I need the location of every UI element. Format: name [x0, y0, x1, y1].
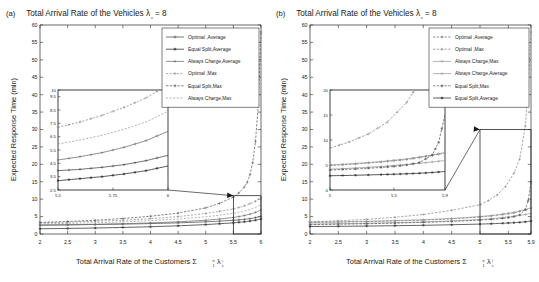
- y-tick-label: 35: [32, 109, 38, 115]
- svg-text:i: i: [222, 259, 223, 263]
- panel-b-svg: (b)Total Arrival Rate of the Vehicles λv…: [270, 0, 539, 282]
- legend-label: Equal Split,Max: [455, 84, 490, 89]
- x-tick-label: 5.5: [504, 239, 511, 245]
- y-tick-label: 10: [301, 196, 307, 202]
- inset-x-tick-label: 5.5: [390, 193, 397, 198]
- svg-text:c: c: [222, 264, 224, 268]
- y-axis-label: Expected Response Time (min): [9, 78, 18, 181]
- y-tick-label: 25: [32, 144, 38, 150]
- x-axis-label: Total Arrival Rate of the Customers Σn1λ…: [76, 257, 224, 268]
- x-tick-label: 5: [204, 239, 207, 245]
- x-tick-label: 6: [260, 239, 263, 245]
- inset-x-tick-label: 5.75: [109, 193, 118, 198]
- panel-label: (a): [6, 9, 16, 18]
- inset-y-tick-label: 15: [323, 113, 328, 118]
- inset-x-tick-label: 5.5: [55, 193, 62, 198]
- inset-x-tick-label: 5.9: [442, 193, 449, 198]
- x-tick-label: 5.9: [527, 239, 534, 245]
- y-tick-label: 10: [32, 196, 38, 202]
- figure-container: (a)Total Arrival Rate of the Vehicles λv…: [0, 0, 539, 282]
- x-tick-label: 3.5: [391, 239, 398, 245]
- y-tick-label: 40: [32, 92, 38, 98]
- legend-label: Always Charge,Average: [188, 59, 241, 64]
- inset-x-tick-label: 6: [167, 193, 170, 198]
- zoom-connector: [445, 130, 480, 191]
- y-tick-label: 0: [35, 231, 38, 237]
- svg-text:i: i: [492, 259, 493, 263]
- chart-legend: Optimal ,AverageEqual Split,AverageAlway…: [162, 28, 259, 107]
- svg-text:= 8: = 8: [155, 9, 167, 18]
- legend-label: Optimal ,Average: [455, 35, 493, 40]
- panel-a-svg: (a)Total Arrival Rate of the Vehicles λv…: [0, 0, 270, 282]
- inset-y-tick-label: 3.5: [50, 174, 57, 179]
- legend-label: Always Charge,Max: [455, 59, 499, 64]
- x-tick-label: 3: [94, 239, 97, 245]
- chart-title: Total Arrival Rate of the Vehicles λv = …: [296, 9, 437, 20]
- inset-y-tick-label: 20: [323, 88, 328, 93]
- y-tick-label: 15: [301, 179, 307, 185]
- series-curve: [40, 205, 261, 224]
- inset-y-tick-label: 7.5: [50, 121, 57, 126]
- panel-label: (b): [276, 9, 286, 18]
- y-tick-label: 15: [32, 179, 38, 185]
- chart-title: Total Arrival Rate of the Vehicles λv = …: [26, 9, 167, 20]
- inset-y-tick-label: 10: [323, 138, 328, 143]
- svg-text:Total Arrival Rate of the Cust: Total Arrival Rate of the Customers Σ: [346, 257, 467, 266]
- svg-text:v: v: [151, 16, 153, 20]
- x-axis-label: Total Arrival Rate of the Customers Σn1λ…: [346, 257, 494, 268]
- x-tick-label: 5.5: [230, 239, 237, 245]
- svg-text:c: c: [492, 264, 494, 268]
- legend-label: Equal Split,Average: [188, 47, 231, 52]
- y-tick-label: 25: [301, 144, 307, 150]
- y-tick-label: 55: [32, 39, 38, 45]
- y-tick-label: 5: [304, 213, 307, 219]
- inset-y-tick-label: 5: [325, 163, 328, 168]
- y-tick-label: 60: [32, 22, 38, 28]
- y-tick-label: 50: [301, 57, 307, 63]
- x-tick-label: 3: [365, 239, 368, 245]
- inset-y-tick-label: 8.5: [50, 108, 57, 113]
- svg-text:n: n: [482, 259, 484, 263]
- legend-label: Equal Split,Max: [188, 84, 223, 89]
- legend-label: Equal Split,Average: [455, 96, 498, 101]
- x-tick-label: 2: [308, 239, 311, 245]
- series-curve: [39, 196, 263, 224]
- inset-y-tick-label: 2.5: [50, 188, 57, 193]
- svg-text:Total Arrival Rate of the Cust: Total Arrival Rate of the Customers Σ: [76, 257, 197, 266]
- series-curve: [308, 207, 532, 224]
- y-tick-label: 30: [301, 126, 307, 132]
- panel-a: (a)Total Arrival Rate of the Vehicles λv…: [0, 0, 270, 282]
- svg-text:= 8: = 8: [425, 9, 437, 18]
- x-tick-label: 5: [478, 239, 481, 245]
- inset-y-tick-label: 9.5: [50, 94, 57, 99]
- x-tick-label: 4.5: [175, 239, 182, 245]
- legend-label: Optimal ,Max: [455, 47, 484, 52]
- y-tick-label: 60: [301, 22, 307, 28]
- y-tick-label: 30: [32, 126, 38, 132]
- y-tick-label: 35: [301, 109, 307, 115]
- svg-text:1: 1: [213, 264, 215, 268]
- x-tick-label: 3.5: [119, 239, 126, 245]
- legend-label: Always Charge,Max: [188, 96, 232, 101]
- y-tick-label: 40: [301, 92, 307, 98]
- y-tick-label: 0: [304, 231, 307, 237]
- inset-y-tick-label: 10: [51, 88, 56, 93]
- legend-label: Optimal ,Max: [188, 71, 217, 76]
- y-tick-label: 20: [32, 161, 38, 167]
- svg-text:λ: λ: [487, 257, 491, 266]
- y-tick-label: 55: [301, 39, 307, 45]
- zoom-connector: [168, 190, 233, 196]
- inset-y-tick-label: 0: [325, 188, 328, 193]
- y-tick-label: 50: [32, 57, 38, 63]
- x-tick-label: 4: [421, 239, 424, 245]
- y-tick-label: 45: [32, 74, 38, 80]
- y-tick-label: 5: [35, 213, 38, 219]
- legend-label: Optimal ,Average: [188, 35, 226, 40]
- y-tick-label: 20: [301, 161, 307, 167]
- inset-x-tick-label: 5: [328, 193, 331, 198]
- legend-label: Always Charge,Average: [455, 71, 508, 76]
- inset-y-tick-label: 4.5: [50, 161, 57, 166]
- svg-text:Total Arrival Rate of the Vehi: Total Arrival Rate of the Vehicles λ: [26, 9, 151, 18]
- x-tick-label: 2.5: [64, 239, 71, 245]
- svg-text:1: 1: [482, 264, 484, 268]
